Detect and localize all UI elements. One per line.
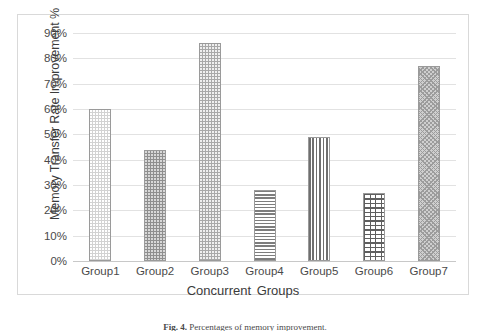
figure-caption-text: Percentages of memory improvement. [189,322,326,331]
x-axis-tick-label: Group7 [401,265,456,277]
x-axis-tick-label: Group3 [182,265,237,277]
bar-slot [237,33,292,261]
bar-group7[interactable] [418,66,440,261]
bar-group1[interactable] [89,109,111,261]
bar-slot [128,33,183,261]
bar-series [73,33,456,261]
x-axis-title: Concurrent Groups [18,283,468,298]
y-axis-tick-label: 50% [44,128,67,140]
x-axis-tick-label: Group4 [237,265,292,277]
y-axis-tick-labels: 90%80%70%60%50%40%30%20%10%0% [25,33,67,261]
x-axis-tick-labels: Group1Group2Group3Group4Group5Group6Grou… [73,265,456,277]
bar-group3[interactable] [199,43,221,261]
figure-frame: Memory Transfer Rate Improvement % 90%80… [17,14,469,295]
y-axis-tick-label: 20% [44,204,67,216]
x-axis-tick-label: Group5 [292,265,347,277]
bar-group6[interactable] [363,193,385,261]
bar-slot [347,33,402,261]
y-axis-tick-label: 80% [44,52,67,64]
y-axis-tick-label: 0% [50,255,67,267]
bar-group2[interactable] [144,150,166,261]
y-axis-tick-label: 60% [44,103,67,115]
bar-group5[interactable] [308,137,330,261]
y-axis-tick-label: 10% [44,230,67,242]
figure-caption-label: Fig. 4. [163,322,187,331]
plot-area: 90%80%70%60%50%40%30%20%10%0% [73,33,456,261]
bar-slot [73,33,128,261]
axis-baseline [73,261,456,262]
bar-group4[interactable] [254,190,276,261]
x-axis-tick-label: Group6 [347,265,402,277]
bar-slot [182,33,237,261]
figure-caption: Fig. 4. Percentages of memory improvemen… [0,322,490,331]
bar-slot [292,33,347,261]
x-axis-tick-label: Group1 [73,265,128,277]
y-axis-tick-label: 40% [44,154,67,166]
y-axis-tick-label: 90% [44,27,67,39]
y-axis-tick-label: 30% [44,179,67,191]
y-axis-tick-label: 70% [44,78,67,90]
x-axis-tick-label: Group2 [128,265,183,277]
bar-slot [401,33,456,261]
